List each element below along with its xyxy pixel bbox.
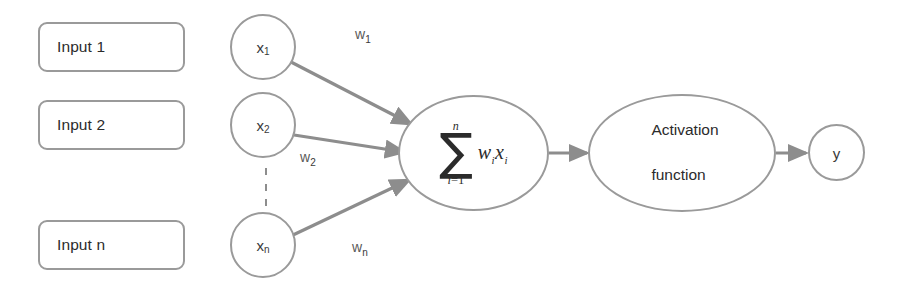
- input-box-n-label: Input n: [57, 236, 105, 254]
- weight-w2-subscript: 2: [310, 157, 316, 168]
- input-box-2[interactable]: Input 2: [38, 100, 185, 150]
- node-x1-subscript: 1: [264, 46, 270, 57]
- node-x1-label: x1: [232, 39, 294, 56]
- node-xn[interactable]: xn: [230, 212, 296, 278]
- summation-body: wixi: [478, 141, 508, 166]
- node-xn-base: x: [256, 237, 264, 254]
- input-box-2-label: Input 2: [57, 116, 105, 134]
- ellipsis-dot: [265, 199, 267, 206]
- node-x2[interactable]: x2: [230, 92, 296, 158]
- edge-x1-to-sum: [291, 62, 411, 124]
- input-box-1-label: Input 1: [57, 38, 105, 56]
- diagram-canvas: Input 1 Input 2 Input n x1 x2 xn w1 w2 w…: [0, 0, 912, 292]
- activation-line-2: function: [651, 164, 718, 186]
- output-node-label: y: [810, 144, 863, 161]
- weight-wn-subscript: n: [362, 247, 368, 258]
- summation-formula: n ∑ i=1 wixi: [439, 120, 508, 186]
- output-node[interactable]: y: [808, 124, 865, 181]
- node-x2-base: x: [256, 117, 264, 134]
- activation-line-1: Activation: [651, 119, 718, 141]
- sigma-lower-limit: i=1: [447, 174, 464, 187]
- summation-w: w: [478, 141, 492, 163]
- summation-x-subscript: i: [504, 154, 508, 166]
- input-box-n[interactable]: Input n: [38, 220, 185, 270]
- node-xn-subscript: n: [264, 244, 270, 255]
- weight-label-w1: w1: [355, 26, 371, 45]
- sigma-stack: n ∑ i=1: [439, 120, 473, 186]
- activation-function-node[interactable]: Activation function: [588, 94, 776, 212]
- input-box-1[interactable]: Input 1: [38, 22, 185, 72]
- weight-label-w2: w2: [300, 149, 316, 168]
- weight-w2-base: w: [300, 149, 310, 165]
- weight-w1-base: w: [355, 26, 365, 42]
- sigma-lower-eq: =1: [451, 173, 464, 187]
- ellipsis-dot: [265, 184, 267, 191]
- ellipsis-dot: [265, 168, 267, 175]
- weight-w1-subscript: 1: [365, 34, 371, 45]
- node-xn-label: xn: [232, 237, 294, 254]
- sigma-icon: ∑: [439, 131, 473, 174]
- node-x2-label: x2: [232, 117, 294, 134]
- node-x2-subscript: 2: [264, 124, 270, 135]
- weight-label-wn: wn: [352, 239, 368, 258]
- summation-node[interactable]: n ∑ i=1 wixi: [398, 95, 549, 211]
- edge-xn-to-sum: [293, 180, 409, 235]
- vertical-ellipsis-icon: [264, 168, 267, 206]
- weight-wn-base: w: [352, 239, 362, 255]
- node-x1-base: x: [256, 39, 264, 56]
- node-x1[interactable]: x1: [230, 14, 296, 80]
- activation-function-text: Activation function: [645, 97, 718, 209]
